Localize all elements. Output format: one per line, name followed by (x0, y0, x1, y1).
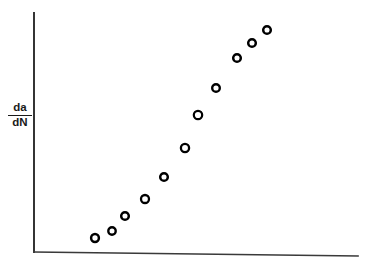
data-point-marker (194, 111, 202, 119)
data-point-marker (108, 227, 115, 234)
fatigue-crack-growth-scatter-figure: da dN (0, 0, 365, 268)
data-point-marker (212, 84, 220, 92)
data-point-marker (233, 54, 241, 62)
data-point-marker (141, 195, 149, 203)
data-point-marker (160, 173, 168, 181)
plot-svg (0, 0, 365, 268)
y-axis-label-numerator: da (8, 102, 32, 116)
x-axis-line (34, 252, 358, 256)
data-point-marker (181, 144, 189, 152)
y-axis-label: da dN (8, 102, 32, 128)
data-point-marker (121, 212, 129, 220)
y-axis-label-denominator: dN (8, 116, 32, 129)
scatter-series (91, 26, 271, 242)
data-point-marker (91, 234, 99, 242)
data-point-marker (248, 39, 256, 47)
data-point-marker (263, 26, 271, 34)
